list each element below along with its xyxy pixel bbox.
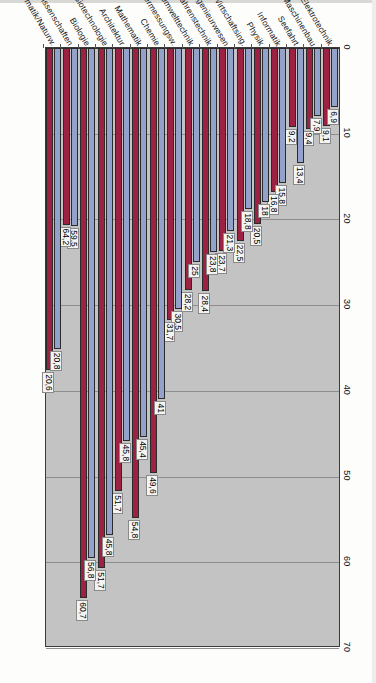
rotated-chart-stage: 010203040506070 ElektrotechnikMaschinenb… bbox=[0, 0, 376, 683]
data-label: 41 bbox=[154, 401, 166, 414]
axis-tick-label: 30 bbox=[342, 299, 352, 309]
bar-group: 15,816,8 bbox=[270, 48, 287, 646]
bar-series-1 bbox=[314, 48, 321, 116]
bar-series-1 bbox=[88, 48, 95, 558]
plot-area: 6,99,17,99,413,49,215,816,81820,518,822,… bbox=[45, 47, 340, 647]
bar-series-2 bbox=[80, 48, 87, 598]
bar-series-2 bbox=[98, 48, 105, 568]
bar-series-1 bbox=[193, 48, 200, 262]
axis-tick-label: 20 bbox=[342, 213, 352, 223]
bar-group: 45,454,8 bbox=[131, 48, 148, 646]
category-tick bbox=[43, 44, 44, 48]
bar-series-1 bbox=[245, 48, 252, 209]
data-label: 45,8 bbox=[119, 443, 131, 464]
data-label: 20,6 bbox=[42, 372, 54, 393]
bar-group: 56,860,7 bbox=[79, 48, 96, 646]
bar-group: 59,564,2 bbox=[61, 48, 78, 646]
bar-series-2 bbox=[271, 48, 278, 192]
bar-group: 18,822,5 bbox=[235, 48, 252, 646]
axis-tick-label: 40 bbox=[342, 385, 352, 395]
bar-series-1 bbox=[262, 48, 269, 202]
data-label: 6,9 bbox=[327, 109, 339, 125]
axis-tick-label: 60 bbox=[342, 556, 352, 566]
bar-series-2 bbox=[63, 48, 70, 225]
bar-group: 4149,6 bbox=[148, 48, 165, 646]
plot-inner: 6,99,17,99,413,49,215,816,81820,518,822,… bbox=[46, 48, 339, 646]
data-label: 56,8 bbox=[84, 560, 96, 581]
bar-group: 45,851,7 bbox=[96, 48, 113, 646]
axis-tick-label: 0 bbox=[342, 44, 352, 49]
bar-series-2 bbox=[219, 48, 226, 251]
bar-group: 23,828,4 bbox=[200, 48, 217, 646]
bar-group: 2528,2 bbox=[183, 48, 200, 646]
value-axis: 010203040506070 bbox=[340, 47, 376, 647]
bar-series-2 bbox=[115, 48, 122, 491]
bar-series-2 bbox=[167, 48, 174, 320]
data-label: 23,8 bbox=[206, 254, 218, 275]
data-label: 21,3 bbox=[223, 233, 235, 254]
bar-group: 30,531,7 bbox=[165, 48, 182, 646]
bar-series-2 bbox=[46, 48, 53, 370]
data-label: 18,8 bbox=[241, 211, 253, 232]
data-label: 13,4 bbox=[293, 165, 305, 186]
bar-series-1 bbox=[140, 48, 147, 437]
bar-series-1 bbox=[227, 48, 234, 231]
bar-series-2 bbox=[289, 48, 296, 127]
bar-group: 45,851,7 bbox=[113, 48, 130, 646]
bar-series-2 bbox=[185, 48, 192, 290]
bar-group: 20,820,6 bbox=[44, 48, 61, 646]
bar-series-1 bbox=[71, 48, 78, 226]
bar-group: 13,49,2 bbox=[287, 48, 304, 646]
bar-series-1 bbox=[106, 48, 113, 535]
scanned-page: 010203040506070 ElektrotechnikMaschinenb… bbox=[0, 0, 376, 683]
bar-series-1 bbox=[123, 48, 130, 441]
bar-series-1 bbox=[279, 48, 286, 183]
data-label: 45,4 bbox=[136, 439, 148, 460]
bar-group: 1820,5 bbox=[252, 48, 269, 646]
bar-chart: 010203040506070 ElektrotechnikMaschinenb… bbox=[0, 0, 376, 683]
bar-series-1 bbox=[210, 48, 217, 252]
axis-tick-label: 50 bbox=[342, 470, 352, 480]
bar-series-1 bbox=[331, 48, 338, 107]
bar-series-2 bbox=[306, 48, 313, 129]
data-label: 18 bbox=[258, 204, 270, 217]
bar-group: 21,323,7 bbox=[218, 48, 235, 646]
data-label: 20,8 bbox=[50, 351, 62, 372]
data-label: 45,8 bbox=[102, 537, 114, 558]
bar-series-1 bbox=[54, 48, 61, 349]
bar-series-1 bbox=[158, 48, 165, 399]
bar-series-1 bbox=[297, 48, 304, 163]
category-axis-labels: ElektrotechnikMaschinenbauSeefahrtInform… bbox=[45, 0, 340, 47]
data-label: 25 bbox=[189, 264, 201, 277]
bar-series-2 bbox=[254, 48, 261, 224]
gridline bbox=[46, 648, 339, 649]
bar-group: 6,99,1 bbox=[322, 48, 339, 646]
axis-tick-label: 70 bbox=[342, 642, 352, 652]
bar-group: 7,99,4 bbox=[304, 48, 321, 646]
axis-tick-label: 10 bbox=[342, 127, 352, 137]
bar-series-1 bbox=[175, 48, 182, 309]
